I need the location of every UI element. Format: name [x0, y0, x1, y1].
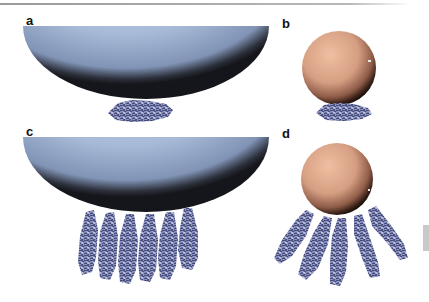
panel-d [274, 143, 408, 286]
large-sphere-a [23, 0, 269, 99]
protein-bundle [158, 212, 178, 280]
small-sphere-b [302, 31, 376, 105]
small-sphere-d [301, 143, 373, 215]
flat-protein-cluster-a [108, 100, 173, 122]
protein-bundle [118, 214, 138, 284]
figure-canvas [0, 0, 429, 302]
protein-bundle [78, 210, 98, 275]
side-tab [423, 225, 429, 251]
flat-protein-cluster-b [316, 103, 372, 121]
protein-bundle [98, 212, 118, 280]
panel-b [302, 31, 376, 121]
panel-a [23, 0, 269, 122]
radial-protein-bundles-d [274, 206, 408, 286]
protein-bundle [330, 218, 348, 286]
protein-bundle [138, 214, 158, 282]
upright-protein-bundles-c [78, 208, 198, 284]
protein-bundle [178, 208, 198, 270]
